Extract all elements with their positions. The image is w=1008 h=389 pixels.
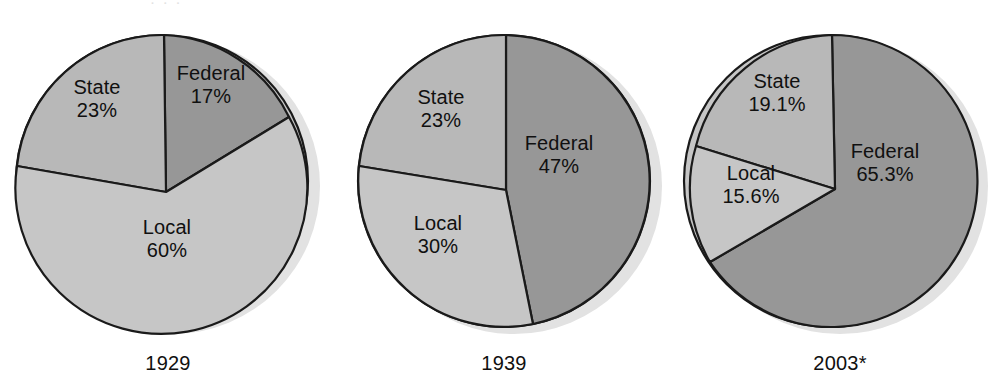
- pie-svg-1929: [0, 0, 336, 348]
- year-label-1939: 1939: [336, 352, 672, 375]
- pie-panel-2003: Federal 65.3% State 19.1% Local 15.6% 20…: [672, 0, 1008, 389]
- pie-slice-state: [359, 35, 506, 190]
- pie-slice-local: [358, 166, 533, 327]
- pie-panel-1929: Federal 17% State 23% Local 60% 1929: [0, 0, 336, 389]
- pie-chart-1929: Federal 17% State 23% Local 60%: [0, 0, 336, 348]
- pie-chart-2003: Federal 65.3% State 19.1% Local 15.6%: [672, 0, 1008, 348]
- pie-slice-state: [17, 35, 166, 192]
- year-label-2003: 2003*: [672, 352, 1008, 375]
- year-label-1929: 1929: [0, 352, 336, 375]
- pie-svg-1939: [336, 0, 672, 348]
- pie-chart-1939: Federal 47% State 23% Local 30%: [336, 0, 672, 348]
- pie-svg-2003: [672, 0, 1008, 348]
- pie-panel-1939: Federal 47% State 23% Local 30% 1939: [336, 0, 672, 389]
- pie-slice-federal: [506, 35, 650, 324]
- pie-chart-figure: · · · Federal 17% State 23%: [0, 0, 1008, 389]
